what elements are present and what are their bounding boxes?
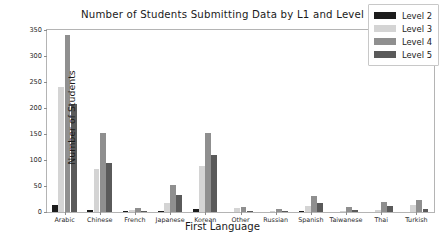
y-tick-label: 350 <box>7 26 47 34</box>
legend-label: Level 5 <box>402 50 432 60</box>
legend-item[interactable]: Level 2 <box>374 9 432 22</box>
bar <box>170 185 176 212</box>
y-tick-mark <box>44 134 47 135</box>
x-tick-mark <box>65 212 66 215</box>
legend-label: Level 4 <box>402 37 432 47</box>
bar <box>164 203 170 212</box>
legend-label: Level 2 <box>402 11 432 21</box>
y-tick-label: 200 <box>7 104 47 112</box>
x-tick-mark <box>170 212 171 215</box>
x-tick-mark <box>381 212 382 215</box>
chart-legend: Level 2Level 3Level 4Level 5 <box>368 4 439 66</box>
legend-label: Level 3 <box>402 24 432 34</box>
y-axis-label: Number of Students <box>66 28 77 208</box>
x-tick-mark <box>276 212 277 215</box>
y-tick-mark <box>44 160 47 161</box>
bar <box>52 205 58 212</box>
bar <box>199 166 205 212</box>
legend-item[interactable]: Level 4 <box>374 35 432 48</box>
bar <box>211 155 217 212</box>
y-tick-mark <box>44 56 47 57</box>
bar <box>317 203 323 212</box>
bar <box>311 196 317 212</box>
x-tick-mark <box>135 212 136 215</box>
legend-swatch-icon <box>374 38 396 45</box>
x-tick-mark <box>241 212 242 215</box>
x-tick-mark <box>416 212 417 215</box>
bar <box>100 133 106 212</box>
y-tick-mark <box>44 30 47 31</box>
x-tick-mark <box>205 212 206 215</box>
legend-swatch-icon <box>374 51 396 58</box>
bar <box>176 195 182 212</box>
y-tick-mark <box>44 82 47 83</box>
bar <box>58 87 64 212</box>
bar <box>94 169 100 212</box>
legend-item[interactable]: Level 3 <box>374 22 432 35</box>
legend-swatch-icon <box>374 25 396 32</box>
legend-swatch-icon <box>374 12 396 19</box>
bar <box>416 200 422 212</box>
y-tick-label: 300 <box>7 52 47 60</box>
x-tick-mark <box>346 212 347 215</box>
bar <box>381 202 387 212</box>
bar <box>410 205 416 212</box>
x-tick-mark <box>100 212 101 215</box>
y-tick-label: 100 <box>7 156 47 164</box>
y-tick-mark <box>44 108 47 109</box>
y-tick-label: 250 <box>7 78 47 86</box>
x-axis-label: First Language <box>0 221 445 232</box>
chart-figure: Number of Students Submitting Data by L1… <box>0 0 445 251</box>
y-tick-label: 50 <box>7 182 47 190</box>
legend-item[interactable]: Level 5 <box>374 48 432 61</box>
bar <box>106 163 112 212</box>
x-tick-mark <box>311 212 312 215</box>
y-tick-label: 150 <box>7 130 47 138</box>
bar <box>205 133 211 212</box>
y-tick-mark <box>44 186 47 187</box>
